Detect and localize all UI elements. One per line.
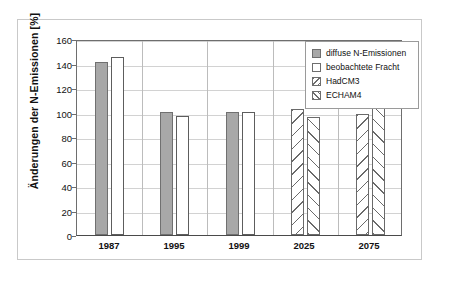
legend-item-label: diffuse N-Emissionen bbox=[326, 49, 406, 58]
y-tick-mark bbox=[72, 40, 76, 41]
y-tick-mark bbox=[72, 89, 76, 90]
legend-item-label: ECHAM4 bbox=[326, 91, 361, 100]
y-tick-mark bbox=[72, 138, 76, 139]
legend-item: ECHAM4 bbox=[312, 89, 412, 102]
chart-legend: diffuse N-Emissionenbeobachtete FrachtHa… bbox=[305, 41, 419, 109]
bar bbox=[176, 116, 189, 235]
bar bbox=[356, 114, 369, 235]
bar bbox=[95, 62, 108, 235]
x-tick-label: 1999 bbox=[228, 240, 249, 251]
gridline bbox=[77, 188, 401, 189]
bar bbox=[160, 112, 173, 235]
hatch-backslash-swatch-icon bbox=[312, 77, 321, 86]
y-tick-mark bbox=[72, 65, 76, 66]
legend-item-label: HadCM3 bbox=[326, 77, 360, 86]
y-axis-tick-labels: 020406080100120140160 bbox=[40, 40, 72, 236]
y-tick-label: 140 bbox=[56, 59, 72, 70]
legend-item: diffuse N-Emissionen bbox=[312, 47, 412, 60]
bar bbox=[291, 109, 304, 235]
bar bbox=[111, 57, 124, 235]
gridline bbox=[77, 213, 401, 214]
y-tick-label: 100 bbox=[56, 108, 72, 119]
legend-item: HadCM3 bbox=[312, 75, 412, 88]
open-white-swatch-icon bbox=[312, 63, 321, 72]
y-tick-mark bbox=[72, 212, 76, 213]
y-tick-mark bbox=[72, 114, 76, 115]
x-tick-label: 2075 bbox=[358, 240, 379, 251]
y-tick-label: 160 bbox=[56, 35, 72, 46]
y-tick-mark bbox=[72, 163, 76, 164]
y-tick-label: 120 bbox=[56, 84, 72, 95]
gridline bbox=[77, 164, 401, 165]
gridline bbox=[77, 115, 401, 116]
legend-item: beobachtete Fracht bbox=[312, 61, 412, 74]
y-tick-label: 80 bbox=[61, 133, 72, 144]
x-tick-label: 1987 bbox=[98, 240, 119, 251]
bar bbox=[226, 112, 239, 235]
bar bbox=[372, 108, 385, 235]
x-axis-tick-labels: 19871995199920252075 bbox=[76, 240, 402, 258]
y-axis-title: Änderungen der N-Emissionen [%] bbox=[28, 1, 40, 201]
category-separator bbox=[142, 41, 143, 235]
category-separator bbox=[273, 41, 274, 235]
category-separator bbox=[207, 41, 208, 235]
y-tick-label: 40 bbox=[61, 182, 72, 193]
hatch-forwardslash-swatch-icon bbox=[312, 91, 321, 100]
y-tick-mark bbox=[72, 236, 76, 237]
y-tick-label: 60 bbox=[61, 157, 72, 168]
legend-item-label: beobachtete Fracht bbox=[326, 63, 399, 72]
gridline bbox=[77, 139, 401, 140]
x-tick-label: 2025 bbox=[293, 240, 314, 251]
solid-gray-swatch-icon bbox=[312, 49, 321, 58]
bar bbox=[307, 117, 320, 235]
x-tick-label: 1995 bbox=[163, 240, 184, 251]
bar bbox=[242, 112, 255, 235]
chart-figure: Änderungen der N-Emissionen [%] 02040608… bbox=[0, 0, 457, 282]
y-tick-label: 20 bbox=[61, 206, 72, 217]
y-tick-mark bbox=[72, 187, 76, 188]
